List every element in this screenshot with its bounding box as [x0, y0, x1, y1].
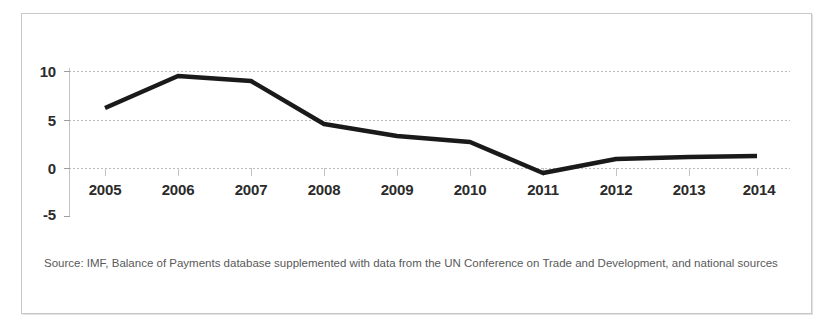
y-axis-label-0: 0 [36, 160, 56, 177]
x-axis-label-2011: 2011 [527, 181, 559, 198]
y-axis-label-10: 10 [36, 63, 56, 80]
x-axis-label-2007: 2007 [235, 181, 268, 198]
y-axis-label-5: 5 [36, 112, 56, 129]
x-axis-label-2012: 2012 [600, 181, 633, 198]
x-axis-label-2010: 2010 [454, 181, 487, 198]
y-axis-label-minus5: -5 [32, 206, 56, 223]
x-axis-label-2014: 2014 [743, 181, 776, 198]
x-axis-label-2006: 2006 [162, 181, 195, 198]
chart-figure: 10 5 0 -5 2005 2006 2007 2008 2009 2010 … [0, 0, 833, 328]
x-axis-label-2005: 2005 [89, 181, 122, 198]
x-axis-label-2013: 2013 [673, 181, 706, 198]
x-axis-label-2008: 2008 [308, 181, 341, 198]
source-note: Source: IMF, Balance of Payments databas… [44, 256, 784, 271]
x-axis-label-2009: 2009 [381, 181, 414, 198]
